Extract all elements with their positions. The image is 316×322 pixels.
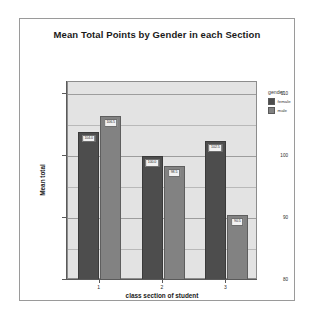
bar-value-label: 98.5 bbox=[168, 169, 180, 177]
y-axis bbox=[66, 81, 67, 280]
bar-male-section-2[interactable] bbox=[164, 166, 185, 280]
y-tick-label: 80 bbox=[283, 277, 288, 282]
legend-swatch-icon bbox=[268, 98, 275, 105]
y-tick-label: 90 bbox=[283, 215, 288, 220]
gridline-minor bbox=[68, 125, 256, 126]
x-tick-label: 1 bbox=[97, 284, 100, 290]
bar-value-label: 102.5 bbox=[208, 144, 222, 152]
bar-female-section-2[interactable] bbox=[142, 156, 163, 280]
gridline-major bbox=[68, 94, 256, 95]
legend-item-male[interactable]: male bbox=[268, 107, 291, 114]
legend-item-female[interactable]: female bbox=[268, 98, 291, 105]
y-tick bbox=[62, 155, 66, 156]
y-tick-label: 110 bbox=[281, 91, 288, 96]
y-tick bbox=[62, 217, 66, 218]
x-tick bbox=[162, 279, 163, 283]
y-tick bbox=[62, 93, 66, 94]
legend-item-label: female bbox=[278, 99, 291, 104]
bar-value-label: 100.0 bbox=[145, 159, 159, 167]
x-tick-label: 2 bbox=[161, 284, 164, 290]
bar-value-label: 90.5 bbox=[231, 218, 243, 226]
x-tick-label: 3 bbox=[224, 284, 227, 290]
x-axis bbox=[67, 279, 257, 280]
x-axis-title: class section of student bbox=[67, 292, 257, 299]
chart-title: Mean Total Points by Gender in each Sect… bbox=[20, 29, 294, 40]
bar-value-label: 104.0 bbox=[82, 135, 96, 143]
legend-item-label: male bbox=[278, 108, 288, 113]
bar-female-section-3[interactable] bbox=[205, 141, 226, 280]
legend-swatch-icon bbox=[268, 107, 275, 114]
y-tick-label: 100 bbox=[280, 153, 288, 158]
bar-value-label: 106.5 bbox=[104, 119, 118, 127]
legend-items: femalemale bbox=[268, 98, 291, 114]
chart-frame: Mean Total Points by Gender in each Sect… bbox=[19, 18, 295, 301]
plot-area: 104.0106.5100.098.5102.590.5 bbox=[67, 81, 257, 279]
y-tick bbox=[62, 279, 66, 280]
x-tick bbox=[99, 279, 100, 283]
x-tick bbox=[225, 279, 226, 283]
y-axis-title: Mean total bbox=[39, 164, 46, 196]
bar-female-section-1[interactable] bbox=[78, 132, 99, 281]
bar-male-section-1[interactable] bbox=[100, 116, 121, 280]
